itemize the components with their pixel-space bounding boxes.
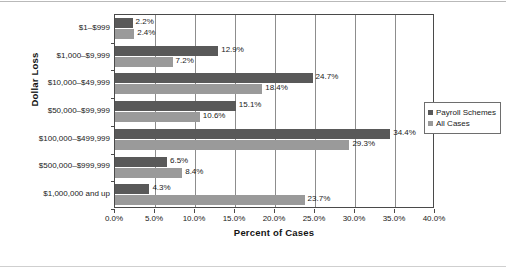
- bar: [115, 101, 236, 111]
- x-axis-title: Percent of Cases: [114, 227, 434, 238]
- y-axis-category-labels: $1–$999$1,000–$9,999$10,000–$49,999$50,0…: [18, 14, 110, 208]
- bar: [115, 84, 262, 94]
- plot-area: 2.2%2.4%12.9%7.2%24.7%18.4%15.1%10.6%34.…: [114, 14, 434, 208]
- bar-value-label: 23.7%: [308, 194, 331, 204]
- x-tick-label: 25.0%: [303, 214, 326, 223]
- bar-value-label: 6.5%: [170, 156, 188, 166]
- bar: [115, 73, 313, 83]
- bar-group: 12.9%7.2%: [115, 43, 433, 71]
- bar: [115, 18, 133, 28]
- bar-group: 34.4%29.3%: [115, 126, 433, 154]
- x-tick-mark: [394, 209, 395, 213]
- legend-label: All Cases: [436, 118, 470, 129]
- x-tick-label: 30.0%: [343, 214, 366, 223]
- x-tick-label: 0.0%: [105, 214, 123, 223]
- y-axis-category-label: $500,000–$999,999: [18, 161, 110, 171]
- bar-value-label: 12.9%: [221, 45, 244, 55]
- bar: [115, 140, 349, 150]
- y-axis-category-label: $50,000–$99,999: [18, 106, 110, 116]
- bar-value-label: 24.7%: [316, 72, 339, 82]
- x-tick-label: 15.0%: [223, 214, 246, 223]
- x-tick-mark: [154, 209, 155, 213]
- bar-value-label: 18.4%: [265, 83, 288, 93]
- x-tick-mark: [314, 209, 315, 213]
- bar-value-label: 15.1%: [239, 100, 262, 110]
- bar-group: 24.7%18.4%: [115, 70, 433, 98]
- bar: [115, 29, 134, 39]
- bar-value-label: 34.4%: [393, 128, 416, 138]
- x-axis-ticks: 0.0%5.0%10.0%15.0%20.0%25.0%30.0%35.0%40…: [114, 209, 434, 223]
- x-tick-label: 10.0%: [183, 214, 206, 223]
- bar: [115, 184, 149, 194]
- x-tick-mark: [354, 209, 355, 213]
- bar-value-label: 2.4%: [137, 28, 155, 38]
- bar-value-label: 29.3%: [352, 139, 375, 149]
- bar-group: 2.2%2.4%: [115, 15, 433, 43]
- bar-group: 6.5%8.4%: [115, 154, 433, 182]
- legend-swatch-icon: [428, 121, 433, 126]
- bar: [115, 157, 167, 167]
- legend-label: Payroll Schemes: [436, 107, 496, 118]
- legend-item[interactable]: Payroll Schemes: [428, 107, 496, 118]
- bar: [115, 112, 200, 122]
- y-axis-category-label: $1,000,000 and up: [18, 189, 110, 199]
- top-divider: [0, 1, 506, 2]
- bar-value-label: 10.6%: [203, 111, 226, 121]
- x-tick-label: 5.0%: [145, 214, 163, 223]
- x-tick-mark: [194, 209, 195, 213]
- legend-item[interactable]: All Cases: [428, 118, 496, 129]
- bar: [115, 57, 173, 67]
- bar: [115, 46, 218, 56]
- x-tick-label: 20.0%: [263, 214, 286, 223]
- bar-value-label: 2.2%: [136, 17, 154, 27]
- y-axis-category-label: $10,000–$49,999: [18, 78, 110, 88]
- bar-group: 4.3%23.7%: [115, 181, 433, 209]
- y-axis-category-label: $100,000–$499,999: [18, 134, 110, 144]
- x-tick-label: 40.0%: [423, 214, 446, 223]
- bar-value-label: 7.2%: [176, 56, 194, 66]
- x-tick-mark: [234, 209, 235, 213]
- bar: [115, 195, 305, 205]
- chart-container: Dollar Loss $1–$999$1,000–$9,999$10,000–…: [0, 0, 506, 267]
- bar: [115, 168, 182, 178]
- x-tick-label: 35.0%: [383, 214, 406, 223]
- y-axis-category-label: $1,000–$9,999: [18, 51, 110, 61]
- x-tick-mark: [274, 209, 275, 213]
- y-axis-category-label: $1–$999: [18, 23, 110, 33]
- bar: [115, 129, 390, 139]
- bar-value-label: 8.4%: [185, 167, 203, 177]
- x-tick-mark: [114, 209, 115, 213]
- legend-swatch-icon: [428, 110, 433, 115]
- bar-value-label: 4.3%: [152, 183, 170, 193]
- chart-legend: Payroll SchemesAll Cases: [424, 102, 501, 134]
- bar-group: 15.1%10.6%: [115, 98, 433, 126]
- x-tick-mark: [434, 209, 435, 213]
